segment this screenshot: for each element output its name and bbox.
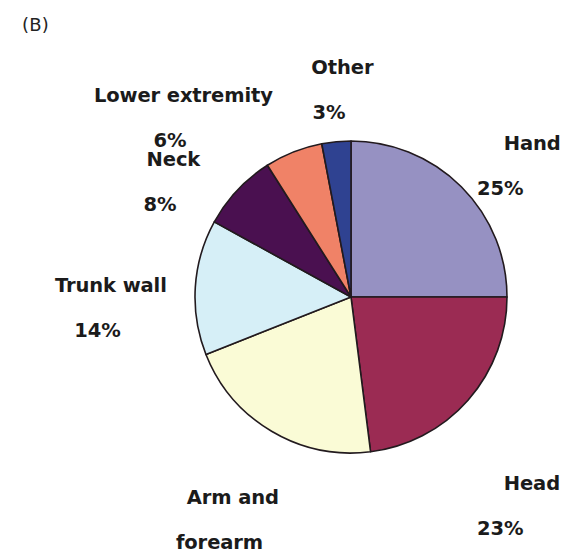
slice-label-neck: Neck 8% — [95, 126, 225, 262]
slice-label-arm-and-forearm-line1: Arm and — [187, 486, 279, 509]
slice-label-head-percent: 23% — [477, 518, 560, 541]
slice-label-hand-percent: 25% — [477, 178, 561, 201]
slice-label-hand-name: Hand — [504, 132, 561, 155]
slice-label-head: Head 23% — [477, 450, 560, 552]
slice-label-trunk-wall-name: Trunk wall — [55, 274, 167, 297]
slice-label-hand: Hand 25% — [477, 110, 561, 246]
pie-slice-head — [351, 297, 507, 452]
slice-label-other-name: Other — [311, 56, 373, 79]
slice-label-trunk-wall: Trunk wall 14% — [15, 252, 180, 388]
slice-label-neck-percent: 8% — [95, 194, 225, 217]
slice-label-other: Other 3% — [281, 34, 377, 170]
slice-label-other-percent: 3% — [281, 102, 377, 125]
slice-label-arm-and-forearm-line2: forearm — [132, 532, 307, 552]
slice-label-head-name: Head — [504, 472, 560, 495]
pie-chart-figure: (B) Hand 25% Head 23% Other 3% Lower ext… — [0, 0, 576, 552]
slice-label-arm-and-forearm: Arm and forearm 21% — [132, 464, 307, 552]
slice-label-lower-extremity-name: Lower extremity — [94, 84, 273, 107]
slice-label-neck-name: Neck — [147, 148, 201, 171]
slice-label-trunk-wall-percent: 14% — [15, 320, 180, 343]
